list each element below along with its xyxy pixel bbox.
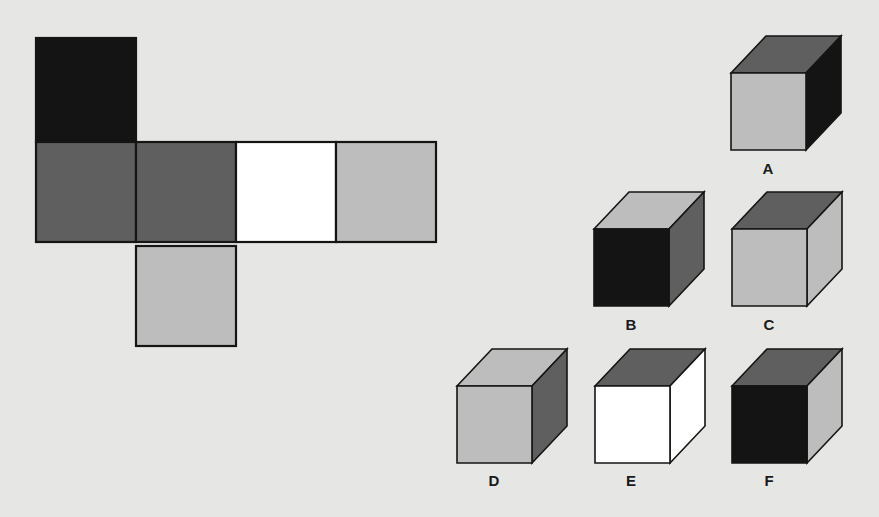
- cube-front-face: [594, 229, 669, 306]
- puzzle-canvas: [0, 0, 879, 517]
- cube-front-face: [732, 386, 807, 463]
- cube-front-face: [457, 386, 532, 463]
- cube-option-f[interactable]: [732, 349, 842, 463]
- cube-net: [36, 38, 436, 346]
- option-label-a[interactable]: A: [748, 160, 788, 177]
- cube-front-face: [595, 386, 670, 463]
- option-label-c[interactable]: C: [749, 316, 789, 333]
- net-face-row-3: [236, 142, 336, 242]
- cube-front-face: [731, 73, 806, 150]
- option-label-b[interactable]: B: [611, 316, 651, 333]
- cube-option-d[interactable]: [457, 349, 567, 463]
- net-face-row-2: [136, 142, 236, 242]
- cube-option-c[interactable]: [732, 192, 842, 306]
- net-face-row-1: [36, 142, 136, 242]
- option-label-e[interactable]: E: [611, 472, 651, 489]
- net-face-bottom-flap: [136, 246, 236, 346]
- net-face-row-4: [336, 142, 436, 242]
- cube-option-b[interactable]: [594, 192, 704, 306]
- cube-front-face: [732, 229, 807, 306]
- cube-option-a[interactable]: [731, 36, 841, 150]
- net-face-top-flap: [36, 38, 136, 142]
- option-label-f[interactable]: F: [749, 472, 789, 489]
- option-label-d[interactable]: D: [474, 472, 514, 489]
- cube-option-e[interactable]: [595, 349, 705, 463]
- answer-options: [457, 36, 842, 463]
